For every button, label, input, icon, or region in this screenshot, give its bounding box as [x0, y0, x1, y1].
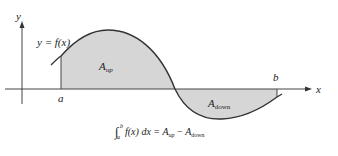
integral-diagram: y x y = f(x) a b Aup Adown ∫ b a f(x) dx… — [0, 0, 338, 156]
area-up-region — [61, 30, 175, 89]
integral-formula: ∫ b a f(x) dx = Aup − Adown — [114, 123, 205, 140]
x-axis-label: x — [315, 83, 321, 95]
y-axis-label: y — [15, 10, 21, 22]
formula-body: f(x) dx = Aup − Adown — [125, 126, 205, 138]
integral-lower-limit: a — [117, 134, 120, 140]
bound-a-label: a — [58, 92, 64, 104]
integral-upper-limit: b — [120, 123, 123, 129]
y-axis-arrow-icon — [20, 21, 25, 28]
curve-label: y = f(x) — [36, 36, 70, 49]
bound-b-label: b — [273, 71, 279, 83]
x-axis-arrow-icon — [305, 87, 312, 92]
